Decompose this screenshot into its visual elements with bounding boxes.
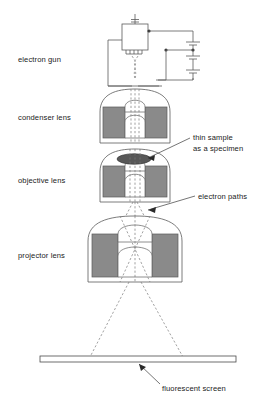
label-projector-lens: projector lens	[18, 251, 65, 260]
gun-filament-hatch	[126, 50, 142, 54]
electron-paths-arrowhead	[148, 207, 156, 213]
label-thin-sample-line1: thin sample	[193, 133, 233, 142]
electron-gun-assembly	[108, 14, 200, 86]
objective-pole-lower	[125, 174, 145, 197]
objective-lens-assembly	[100, 149, 170, 202]
tem-schematic-svg: electron gun condenser lens objective le…	[0, 0, 280, 411]
hv-wire-bottom	[158, 78, 193, 80]
label-thin-sample-line2: as a specimen	[193, 144, 243, 153]
thin-sample-specimen	[117, 154, 151, 164]
condenser-lens-assembly	[100, 89, 170, 143]
label-electron-gun: electron gun	[18, 55, 61, 64]
electron-gun-body	[122, 24, 148, 50]
projector-lens-assembly	[88, 216, 182, 282]
tem-diagram: electron gun condenser lens objective le…	[0, 0, 280, 411]
hv-cell-stack	[186, 42, 200, 80]
gun-beam-right	[134, 56, 138, 80]
label-electron-paths: electron paths	[198, 192, 247, 201]
beam-screen-left	[90, 282, 129, 357]
condenser-coil-left	[103, 107, 125, 138]
gun-anode-wire	[156, 50, 166, 80]
label-fluorescent-screen: fluorescent screen	[162, 384, 226, 393]
objective-coil-left	[103, 166, 125, 197]
label-condenser-lens: condenser lens	[18, 113, 71, 122]
fluorescent-screen-plate	[40, 356, 236, 362]
beam-screen-right	[141, 282, 183, 357]
projector-coil-left	[92, 234, 118, 277]
beam-projector-to-screen	[90, 282, 183, 357]
hv-wire-top	[149, 31, 193, 42]
label-objective-lens: objective lens	[18, 176, 66, 185]
projector-coil-right	[152, 234, 178, 277]
condenser-coil-right	[145, 107, 167, 138]
objective-coil-right	[145, 166, 167, 197]
